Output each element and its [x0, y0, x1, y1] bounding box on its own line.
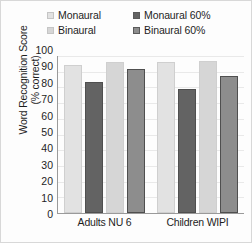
bar-group-2 [151, 56, 244, 213]
bar-binaural-2 [199, 61, 217, 213]
y-tick-90: 90 [41, 61, 53, 72]
bar-monaural-60-1 [85, 82, 103, 213]
legend-entry-monaural: Monaural [47, 10, 133, 21]
legend-entry-binaural-60: Binaural 60% [133, 25, 243, 36]
legend-entry-monaural-60: Monaural 60% [133, 10, 243, 21]
bar-group-1 [58, 56, 151, 213]
legend-label-monaural: Monaural [58, 10, 101, 21]
bar-monaural-60-2 [178, 89, 196, 213]
y-tick-60: 60 [41, 110, 53, 121]
plot-area [57, 56, 244, 214]
y-tick-10: 10 [41, 192, 53, 203]
bar-monaural-2 [157, 62, 175, 213]
y-tick-70: 70 [41, 94, 53, 105]
x-axis-label-adults: Adults NU 6 [58, 216, 151, 228]
legend-label-binaural-60: Binaural 60% [144, 25, 205, 36]
bar-binaural-60-1 [127, 69, 145, 213]
legend-swatch-monaural [47, 12, 54, 19]
legend-swatch-binaural [47, 27, 54, 34]
bar-groups [58, 56, 244, 213]
y-tick-40: 40 [41, 143, 53, 154]
legend-swatch-monaural-60 [133, 12, 140, 19]
legend-label-monaural-60: Monaural 60% [144, 10, 211, 21]
x-axis-label-children: Children WIPI [151, 216, 244, 228]
y-tick-0: 0 [47, 209, 53, 220]
x-axis-category-labels: Adults NU 6 Children WIPI [58, 216, 244, 228]
y-tick-30: 30 [41, 160, 53, 171]
y-axis-tick-labels: 1009080706050403020100 [27, 50, 53, 214]
y-tick-80: 80 [41, 78, 53, 89]
y-tick-20: 20 [41, 176, 53, 187]
y-tick-100: 100 [35, 45, 53, 56]
y-tick-50: 50 [41, 127, 53, 138]
bar-monaural-1 [64, 65, 82, 213]
bar-binaural-1 [106, 62, 124, 213]
bar-chart-figure: Monaural Monaural 60% Binaural Binaural … [0, 0, 252, 243]
legend-swatch-binaural-60 [133, 27, 140, 34]
legend-label-binaural: Binaural [58, 25, 96, 36]
bar-binaural-60-2 [220, 76, 238, 213]
legend-entry-binaural: Binaural [47, 25, 133, 36]
chart-legend: Monaural Monaural 60% Binaural Binaural … [47, 8, 247, 38]
